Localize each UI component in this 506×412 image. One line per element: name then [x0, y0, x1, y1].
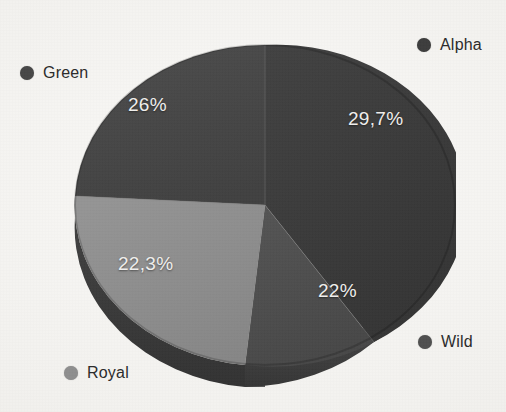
slice-label-royal: 22,3%: [118, 253, 173, 275]
pie-slice-royal[interactable]: [75, 196, 265, 365]
legend-item-royal[interactable]: Royal: [64, 364, 129, 382]
pie-svg: [74, 20, 456, 387]
pie-slice-green[interactable]: [75, 45, 265, 205]
legend-swatch-circle-icon: [417, 38, 431, 52]
legend-swatch-circle-icon: [418, 335, 432, 349]
legend-label-green: Green: [43, 64, 88, 82]
legend-swatch-circle-icon: [64, 366, 78, 380]
legend-label-alpha: Alpha: [440, 36, 482, 54]
slice-label-wild: 22%: [318, 280, 357, 302]
legend-item-alpha[interactable]: Alpha: [417, 36, 482, 54]
slice-label-alpha: 29,7%: [348, 108, 403, 130]
pie-chart-graphic: [74, 20, 456, 387]
slice-label-green: 26%: [128, 94, 167, 116]
legend-label-royal: Royal: [87, 364, 129, 382]
legend-item-green[interactable]: Green: [20, 64, 88, 82]
legend-label-wild: Wild: [441, 333, 473, 351]
legend-item-wild[interactable]: Wild: [418, 333, 473, 351]
pie-chart-figure: 29,7% 22% 22,3% 26% Alpha Green Royal Wi…: [0, 0, 506, 412]
legend-swatch-circle-icon: [20, 66, 34, 80]
